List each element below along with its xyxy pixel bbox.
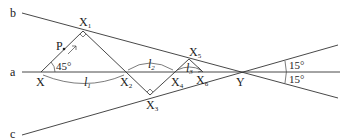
label-angle-15-lower: 15°	[289, 73, 304, 85]
label-x6: X6	[196, 73, 209, 88]
label-x1: X1	[79, 15, 92, 30]
direction-arrow	[68, 46, 76, 54]
label-p: P	[56, 39, 63, 53]
label-a: a	[10, 65, 16, 79]
label-angle-45: 45°	[56, 60, 71, 72]
label-x4: X4	[171, 75, 184, 90]
label-angle-15-upper: 15°	[289, 59, 304, 71]
label-c: c	[10, 127, 15, 140]
label-b: b	[10, 6, 16, 20]
label-l2: l2	[148, 57, 155, 72]
label-x: X	[36, 75, 45, 89]
right-angle-x3	[147, 89, 153, 92]
reflection-diagram: b a c X P Y X1 X2 X3 X4 X5 X6 l1 l2 l3 4…	[0, 0, 345, 140]
angle-arc-45	[51, 62, 55, 72]
right-angle-x1	[80, 34, 86, 37]
label-x3: X3	[146, 98, 159, 113]
point-p-dot	[63, 48, 66, 51]
label-l3: l3	[186, 61, 193, 76]
label-y: Y	[236, 75, 245, 89]
label-x2: X2	[120, 75, 133, 90]
label-x5: X5	[189, 45, 202, 60]
label-l1: l1	[84, 75, 91, 90]
